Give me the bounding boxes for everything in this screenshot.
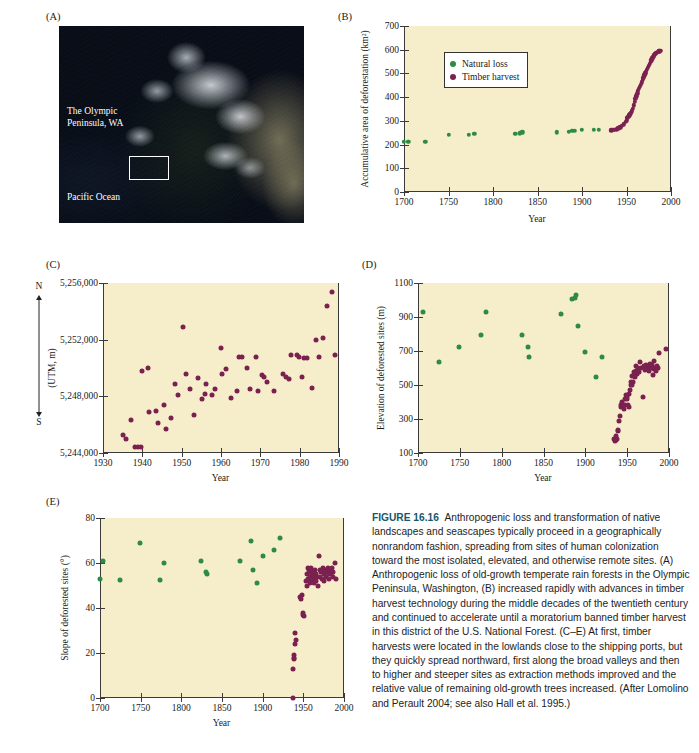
panel-b-point bbox=[406, 140, 410, 144]
panel-c-point bbox=[156, 420, 161, 425]
panel-d-point bbox=[663, 347, 668, 352]
panel-c-point bbox=[240, 354, 245, 359]
panel-e-point bbox=[292, 642, 297, 647]
panel-d-x-tick-inner bbox=[418, 448, 419, 453]
natural-loss-dot-icon bbox=[450, 61, 456, 67]
panel-b-letter: (B) bbox=[338, 11, 352, 22]
panel-c-point bbox=[200, 397, 205, 402]
panel-b-x-axis-title: Year bbox=[404, 214, 670, 224]
panel-e-point bbox=[137, 540, 142, 545]
panel-d-x-tick-inner bbox=[460, 448, 461, 453]
panel-c-x-tick-inner bbox=[339, 448, 340, 453]
panel-d-x-tick-label: 1750 bbox=[450, 458, 469, 468]
legend-item-natural-loss: Natural loss bbox=[450, 57, 519, 70]
panel-c-point bbox=[255, 388, 260, 393]
panel-c-point bbox=[264, 380, 269, 385]
panel-c-point bbox=[271, 388, 276, 393]
panel-e-y-tick-label: 0 bbox=[90, 693, 95, 703]
panel-b-y-axis-title: Accumulative area of deforestation (km²) bbox=[360, 26, 370, 192]
panel-c-y-tick-inner bbox=[103, 283, 108, 284]
panel-c-point bbox=[320, 336, 325, 341]
panel-b-legend: Natural loss Timber harvest bbox=[444, 52, 528, 88]
panel-c-x-tick-label: 1930 bbox=[94, 458, 113, 468]
panel-d-point bbox=[519, 332, 524, 337]
panel-d-x-tick-label: 1850 bbox=[534, 458, 553, 468]
panel-d-x-tick-label: 1800 bbox=[492, 458, 511, 468]
panel-b-x-tick-inner bbox=[493, 187, 494, 192]
panel-b-point bbox=[573, 129, 577, 133]
label-pacific-ocean: Pacific Ocean bbox=[67, 192, 120, 204]
panel-e-y-tick-inner bbox=[100, 518, 105, 519]
panel-d-point bbox=[626, 405, 631, 410]
panel-d-point bbox=[627, 388, 632, 393]
panel-b-y-tick-label: 200 bbox=[385, 140, 399, 150]
panel-e-x-tick-label: 1800 bbox=[172, 703, 191, 713]
panel-d-x-tick-label: 1700 bbox=[409, 458, 428, 468]
panel-c-y-tick-inner bbox=[103, 340, 108, 341]
panel-e-point bbox=[299, 597, 304, 602]
panel-e-y-tick-label: 40 bbox=[86, 603, 96, 613]
panel-d-point bbox=[631, 379, 636, 384]
panel-b-y-tick-label: 700 bbox=[385, 21, 399, 31]
panel-d-y-tick-inner bbox=[418, 419, 423, 420]
panel-e-y-tick-label: 20 bbox=[86, 648, 96, 658]
panel-b-y-tick-inner bbox=[404, 73, 409, 74]
panel-d-y-tick-inner bbox=[418, 317, 423, 318]
panel-b-point bbox=[658, 49, 662, 53]
panel-d-point bbox=[617, 413, 622, 418]
panel-b-y-axis bbox=[404, 26, 405, 192]
panel-d-y-tick-label: 500 bbox=[399, 380, 413, 390]
panel-c-point bbox=[325, 303, 330, 308]
panel-b-y-tick-inner bbox=[404, 168, 409, 169]
panel-e-y-axis-title: Slope of deforested sites (°) bbox=[60, 518, 70, 698]
panel-e-point bbox=[272, 547, 277, 552]
panel-e-x-tick-label: 1900 bbox=[253, 703, 272, 713]
panel-e-point bbox=[254, 581, 259, 586]
panel-b-y-tick-inner bbox=[404, 50, 409, 51]
panel-d-point bbox=[436, 360, 441, 365]
panel-d-y-axis bbox=[418, 283, 419, 453]
panel-c-point bbox=[191, 412, 196, 417]
panel-d-point bbox=[640, 394, 645, 399]
panel-d-point bbox=[656, 350, 661, 355]
panel-c-point bbox=[332, 353, 337, 358]
panel-e-point bbox=[277, 536, 282, 541]
panel-c-point bbox=[305, 356, 310, 361]
legend-label-natural-loss: Natural loss bbox=[462, 59, 508, 69]
panel-c-point bbox=[229, 395, 234, 400]
figure-caption-text: Anthropogenic loss and transformation of… bbox=[372, 512, 690, 709]
panel-c-point bbox=[140, 368, 145, 373]
panel-b-x-tick-label: 1950 bbox=[617, 197, 636, 207]
panel-d-chart: 1003005007009001100170017501800185019001… bbox=[418, 283, 668, 453]
panel-d-point bbox=[625, 396, 630, 401]
panel-c-point bbox=[212, 386, 217, 391]
panel-e-x-tick-inner bbox=[303, 693, 304, 698]
panel-d-point bbox=[559, 311, 564, 316]
panel-c-point bbox=[188, 387, 193, 392]
panel-d-x-tick-inner bbox=[627, 448, 628, 453]
panel-b-point bbox=[597, 128, 601, 132]
panel-c-y-tick-label: 5,248,000 bbox=[60, 391, 98, 401]
panel-c-x-tick-label: 1970 bbox=[251, 458, 270, 468]
panel-d-letter: (D) bbox=[362, 259, 377, 270]
panel-b-y-tick-label: 0 bbox=[394, 187, 399, 197]
arrow-shaft bbox=[39, 299, 40, 413]
panel-d-point bbox=[527, 354, 532, 359]
panel-c-point bbox=[162, 402, 167, 407]
panel-c-point bbox=[329, 289, 334, 294]
panel-e-y-tick-inner bbox=[100, 608, 105, 609]
panel-d-point bbox=[483, 309, 488, 314]
panel-c-point bbox=[180, 324, 185, 329]
panel-c-point bbox=[147, 409, 152, 414]
panel-c-x-tick-label: 1960 bbox=[212, 458, 231, 468]
panel-b-y-tick-label: 600 bbox=[385, 45, 399, 55]
panel-c-point bbox=[223, 367, 228, 372]
panel-c-point bbox=[153, 408, 158, 413]
panel-c-y-axis bbox=[103, 283, 104, 453]
panel-e-point bbox=[316, 554, 321, 559]
timber-harvest-dot-icon bbox=[450, 74, 456, 80]
panel-d-point bbox=[421, 309, 426, 314]
panel-b-y-tick-inner bbox=[404, 97, 409, 98]
panel-e-letter: (E) bbox=[46, 496, 59, 507]
panel-c-point bbox=[145, 366, 150, 371]
